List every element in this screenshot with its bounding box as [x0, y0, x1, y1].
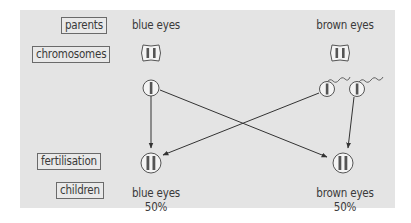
chromosome-pair-icon-left	[142, 45, 161, 61]
arrow-right-to-left	[163, 93, 319, 155]
inheritance-diagram	[0, 0, 411, 223]
arrow-right-down	[348, 97, 354, 148]
gamete-icon-left	[143, 80, 159, 96]
sperm-icon-1	[320, 77, 351, 97]
sperm-icon-2	[350, 77, 384, 97]
zygote-icon-left	[141, 153, 161, 173]
chromosome-pair-icon-right	[331, 45, 350, 61]
zygote-icon-right	[333, 153, 353, 173]
